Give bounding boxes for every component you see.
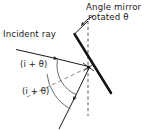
angle-mirror-rotated-label: Angle mirror rotated θ [86,3,141,22]
incident-ray-line-seg1 [16,50,56,59]
incident-ray-line-seg2 [53,58,89,67]
angle-mirror-rotated-label-line1: Angle mirror [86,2,141,12]
angle-mirror-rotated-label-line2: rotated θ [86,13,141,23]
angle-label-upper: (i + θ) [20,60,47,69]
optics-reflection-figure: Incident ray Angle mirror rotated θ (i +… [0,0,155,130]
angle-label-lower: (i + θ) [22,87,49,96]
incident-ray-label: Incident ray [3,30,56,40]
reflected-ray-line-seg2 [59,96,76,129]
mirror-line [75,34,112,93]
rotation-indicator-segment [75,21,89,34]
angle-arc-lower [47,74,71,109]
